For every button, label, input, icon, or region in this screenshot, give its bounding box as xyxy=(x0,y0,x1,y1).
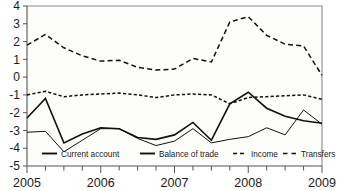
y-tick-label: 4 xyxy=(13,0,20,13)
x-tick-label: 2005 xyxy=(13,176,41,190)
x-axis-ticks xyxy=(27,166,322,173)
plot-background xyxy=(27,6,322,166)
chart-container: 43210-1-2-3-4-5 20052006200720082009 Cur… xyxy=(0,0,337,191)
y-axis-labels: 43210-1-2-3-4-5 xyxy=(9,0,20,173)
y-tick-label: -2 xyxy=(9,106,20,120)
legend-label-income: Income xyxy=(251,150,278,159)
line-chart: 43210-1-2-3-4-5 20052006200720082009 Cur… xyxy=(0,0,337,191)
y-tick-label: -4 xyxy=(9,141,20,155)
y-tick-label: -1 xyxy=(9,88,20,102)
legend-label-transfers: Transfers xyxy=(301,150,335,159)
x-tick-label: 2007 xyxy=(161,176,189,190)
y-tick-label: 3 xyxy=(13,17,20,31)
legend-label-balance-of-trade: Balance of trade xyxy=(159,150,219,159)
y-tick-label: -5 xyxy=(9,159,20,173)
x-tick-label: 2008 xyxy=(234,176,262,190)
y-tick-label: 0 xyxy=(13,70,20,84)
x-tick-label: 2006 xyxy=(87,176,115,190)
legend-label-current-account: Current account xyxy=(61,150,120,159)
y-axis-ticks xyxy=(23,6,27,166)
x-tick-label: 2009 xyxy=(308,176,336,190)
y-tick-label: 1 xyxy=(13,53,20,67)
y-tick-label: 2 xyxy=(13,35,20,49)
x-axis-labels: 20052006200720082009 xyxy=(13,176,336,190)
y-tick-label: -3 xyxy=(9,124,20,138)
